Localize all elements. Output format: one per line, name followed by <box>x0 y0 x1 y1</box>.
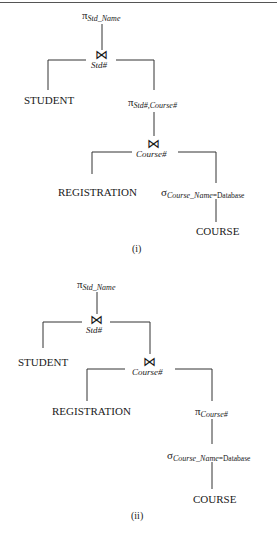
select-course-name-node: σCourse_Name=Database <box>167 450 250 463</box>
relation-course: COURSE <box>193 494 236 505</box>
figure-caption: (ii) <box>131 511 143 521</box>
project-std-name-node: πStd_Name <box>77 279 115 292</box>
projection-attrs: Std_Name <box>83 283 116 292</box>
project-course-node: πCourse# <box>195 406 228 419</box>
relation-registration: REGISTRATION <box>58 187 137 198</box>
selection-attr: Course_Name <box>167 191 213 200</box>
project-std-course-node: πStd#,Course# <box>128 97 177 110</box>
join-condition: Course# <box>136 150 167 159</box>
join-condition: Course# <box>132 368 163 377</box>
projection-attrs: Std_Name <box>88 14 121 23</box>
selection-value: =Database <box>213 191 245 200</box>
projection-attrs: Std#,Course# <box>134 101 177 110</box>
relation-course: COURSE <box>196 226 239 237</box>
relation-student: STUDENT <box>24 95 74 106</box>
selection-value: =Database <box>219 454 251 463</box>
figure-caption: (i) <box>132 244 141 254</box>
join-condition: Std# <box>91 61 107 70</box>
projection-attrs: Course# <box>201 410 228 419</box>
selection-attr: Course_Name <box>173 454 219 463</box>
join-condition: Std# <box>86 326 102 335</box>
project-std-name-node: πStd_Name <box>82 10 120 23</box>
select-course-name-node: σCourse_Name=Database <box>161 187 244 200</box>
relation-student: STUDENT <box>18 357 68 368</box>
relation-registration: REGISTRATION <box>52 406 131 417</box>
